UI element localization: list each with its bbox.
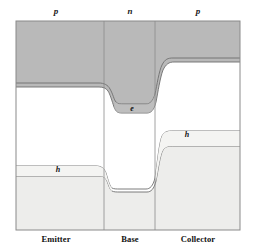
hole-label-emitter: h [56,165,60,174]
region-label-collector: Collector [181,234,215,244]
region-label-emitter: Emitter [41,234,70,244]
hole-label-collector: h [185,130,189,139]
region-label-base: Base [121,234,138,244]
band-diagram-figure: p n p e h h Emitter Base Collector [0,0,256,248]
doping-label-base: n [127,6,132,16]
electron-label: e [130,104,134,113]
band-diagram-svg [0,0,256,248]
doping-label-collector: p [196,6,201,16]
doping-label-emitter: p [54,6,59,16]
